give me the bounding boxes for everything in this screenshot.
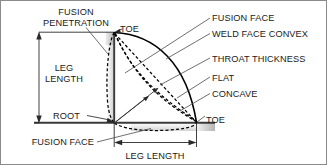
label-fusion-penetration-line2: PENETRATION	[43, 18, 109, 28]
label-flat: FLAT	[212, 73, 234, 83]
label-concave: CONCAVE	[212, 89, 257, 99]
diagram-canvas: FUSION PENETRATION LEG LENGTH ROOT TOE F…	[1, 1, 327, 165]
weld-terminology-diagram: FUSION PENETRATION LEG LENGTH ROOT TOE F…	[0, 0, 327, 165]
label-fusion-face-bottom: FUSION FACE	[32, 137, 94, 147]
label-leg-length-left-line2: LENGTH	[45, 74, 83, 84]
leader-fusion-penetration	[86, 28, 108, 55]
label-toe-right: TOE	[206, 115, 225, 125]
label-fusion-penetration-line1: FUSION	[58, 7, 93, 17]
label-root: ROOT	[53, 111, 80, 121]
leader-fusion-face-bottom	[97, 129, 151, 143]
dimension-leg-length-vertical	[34, 32, 42, 124]
fusion-shade-vertical-lower	[107, 45, 114, 123]
leader-weld-face-convex	[166, 34, 210, 60]
leader-toe-right	[197, 116, 205, 122]
throat-thickness-arrow-concave	[116, 96, 150, 122]
label-fusion-face-right: FUSION FACE	[212, 13, 274, 23]
leader-concave	[180, 94, 210, 112]
label-leg-length-left-line1: LEG	[55, 63, 74, 73]
label-throat-thickness: THROAT THICKNESS	[212, 54, 306, 64]
label-toe-top: TOE	[120, 24, 139, 34]
leader-flat	[177, 77, 210, 98]
label-weld-face-convex: WELD FACE CONVEX	[212, 29, 308, 39]
label-leg-length-bottom: LEG LENGTH	[125, 151, 184, 161]
